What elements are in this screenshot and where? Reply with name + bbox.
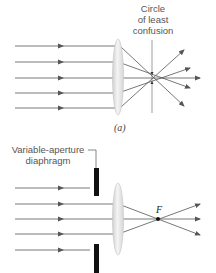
focal-point [156, 217, 160, 221]
label-line-1: Circle [122, 3, 184, 14]
focal-point-label: F [156, 204, 162, 215]
label-line-2: of least [122, 14, 184, 25]
figure-a-ray-arrowheads [58, 44, 64, 111]
figure-b-ray-arrowheads [58, 186, 64, 253]
figure-a-lens [113, 39, 124, 115]
label-line-3: confusion [122, 25, 184, 36]
diaphragm-top-bar [94, 168, 99, 196]
label-line-2: diaphragm [6, 155, 90, 166]
figure-b-lens [113, 183, 124, 255]
figure-a-caption: (a) [114, 122, 126, 133]
diaphragm-bottom-bar [94, 244, 99, 273]
circle-of-least-confusion-label: Circle of least confusion [122, 3, 184, 36]
figure-b-incoming-rays [15, 188, 200, 250]
variable-aperture-diaphragm-label: Variable-aperture diaphragm [6, 144, 90, 166]
figure-a-refracted-rays [121, 47, 190, 107]
optics-diagram [0, 0, 216, 273]
figure-a-incoming-rays [15, 46, 200, 108]
label-line-1: Variable-aperture [6, 144, 90, 155]
